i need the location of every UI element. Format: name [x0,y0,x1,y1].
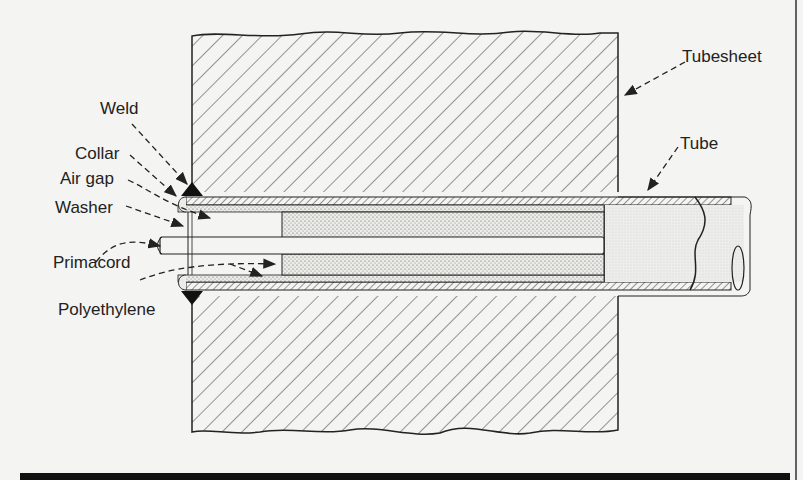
tube-plug-diagram [0,0,803,480]
label-air-gap: Air gap [60,170,114,187]
label-polyethylene: Polyethylene [58,301,155,318]
collar-top [178,205,604,212]
label-weld: Weld [100,100,138,117]
label-collar: Collar [75,145,119,162]
diagram-frame: Tubesheet Tube Weld Collar Air gap Washe… [0,0,803,480]
label-primacord: Primacord [53,254,130,271]
primacord [158,237,605,254]
label-tubesheet: Tubesheet [682,48,762,65]
bottom-rule [20,473,790,480]
label-washer: Washer [55,199,113,216]
explosive-top [282,212,604,238]
collar-bottom [178,275,604,282]
explosive-bottom [282,254,604,275]
label-tube: Tube [680,135,718,152]
